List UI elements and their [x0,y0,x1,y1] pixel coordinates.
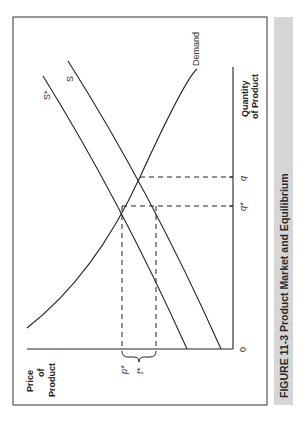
chart-svg: FIGURE 11-3 Product Market and Equilibri… [0,0,299,422]
supply-s-prime-label: S* [42,90,52,100]
svg-text:Product: Product [47,363,57,397]
t-star-label: t* [135,367,145,374]
origin-label: 0 [238,347,248,352]
chart-frame [13,17,267,405]
svg-text:of Product: of Product [250,74,260,119]
figure-caption: FIGURE 11-3 Product Market and Equilibri… [278,173,290,398]
demand-label: Demand [191,32,201,66]
svg-text:Quantity: Quantity [240,80,250,117]
supply-s-label: S [65,76,75,82]
q-star-label: q* [238,202,248,211]
p-star-label: p* [119,365,129,375]
quantity-axis-label: Quantity of Product [240,74,260,119]
figure-11-3: FIGURE 11-3 Product Market and Equilibri… [0,0,299,422]
q-label: q [238,176,248,181]
svg-text:of: of [36,368,46,377]
svg-text:Price: Price [25,370,35,392]
